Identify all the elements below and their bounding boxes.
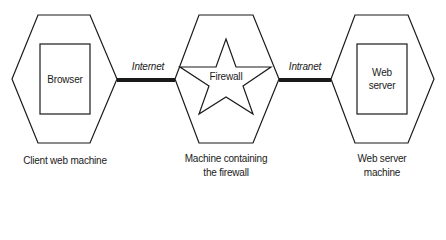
firewall-caption-line1: Machine containing xyxy=(166,152,286,165)
intranet-label: Intranet xyxy=(277,60,333,73)
web-server-label-line2: server xyxy=(357,79,407,92)
web-server-label-line1: Web xyxy=(357,66,407,79)
firewall-caption-line2: the firewall xyxy=(166,166,286,179)
firewall-label: Firewall xyxy=(196,70,256,83)
client-caption: Client web machine xyxy=(10,154,120,167)
internet-label: Internet xyxy=(118,60,178,73)
server-caption-line2: machine xyxy=(332,166,432,179)
browser-label: Browser xyxy=(40,73,90,86)
server-caption-line1: Web server xyxy=(332,152,432,165)
